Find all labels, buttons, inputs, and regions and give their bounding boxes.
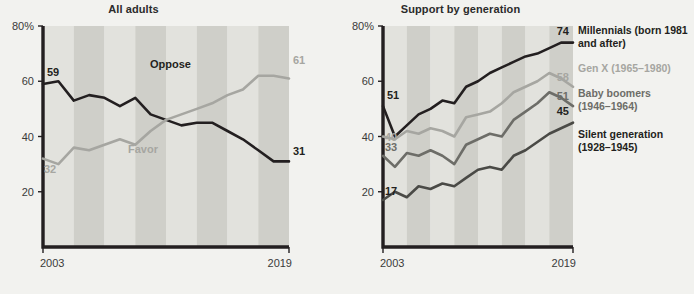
favor-start-value: 32 [44, 163, 56, 175]
chart-svg-all-adults: 80%6040202003201959313261OpposeFavor [0, 0, 347, 294]
boomers-start-value: 33 [385, 141, 397, 153]
silent-end-value: 45 [557, 105, 569, 117]
legend-item-silent-generation: Silent generation (1928–1945) [578, 128, 694, 153]
plot-stripe [431, 26, 455, 247]
legend-boomers-line1: Baby boomers [578, 87, 694, 100]
plot-stripe [197, 26, 228, 247]
legend-item-millennials: Millennials (born 1981 and after) [578, 24, 694, 49]
legend-genx-line1: Gen X (1965–1980) [578, 62, 694, 75]
y-tick-label: 40 [22, 131, 34, 143]
oppose-series-label: Oppose [150, 58, 191, 70]
x-tick-label: 2019 [268, 257, 292, 269]
legend-item-baby-boomers: Baby boomers (1946–1964) [578, 87, 694, 112]
y-tick-label: 60 [362, 75, 374, 87]
plot-stripe [105, 26, 136, 247]
legend-boomers-line2: (1946–1964) [578, 100, 694, 113]
favor-series-label: Favor [128, 143, 159, 155]
x-tick-label: 2003 [40, 257, 64, 269]
legend-item-gen-x: Gen X (1965–1980) [578, 62, 694, 75]
y-tick-label: 60 [22, 75, 34, 87]
plot-stripe [258, 26, 289, 247]
plot-stripe [228, 26, 259, 247]
chart-panel-support-by-generation: Support by generation 80%604020200320195… [347, 0, 694, 294]
oppose-end-value: 31 [293, 145, 305, 157]
favor-end-value: 61 [293, 54, 305, 66]
silent-start-value: 17 [385, 185, 397, 197]
y-tick-label: 20 [22, 186, 34, 198]
boomers-end-value: 51 [557, 90, 569, 102]
genx-end-value: 58 [557, 71, 569, 83]
x-tick-label: 2019 [552, 257, 576, 269]
legend-silent-line2: (1928–1945) [578, 141, 694, 154]
y-tick-label: 20 [362, 186, 374, 198]
y-tick-label: 40 [362, 131, 374, 143]
plot-stripe [454, 26, 478, 247]
y-tick-label: 80% [352, 20, 374, 32]
millennials-start-value: 51 [387, 89, 399, 101]
x-tick-label: 2003 [380, 257, 404, 269]
plot-stripe [43, 26, 74, 247]
plot-stripe [74, 26, 105, 247]
legend-silent-line1: Silent generation [578, 128, 694, 141]
chart-panel-all-adults: All adults 80%6040202003201959313261Oppo… [0, 0, 347, 294]
legend-millennials-line2: and after) [578, 37, 694, 50]
plot-stripe [407, 26, 431, 247]
legend-millennials-line1: Millennials (born 1981 [578, 24, 694, 37]
y-tick-label: 80% [12, 20, 34, 32]
oppose-start-value: 59 [47, 66, 59, 78]
millennials-end-value: 74 [557, 25, 570, 37]
plot-stripe [549, 26, 573, 247]
